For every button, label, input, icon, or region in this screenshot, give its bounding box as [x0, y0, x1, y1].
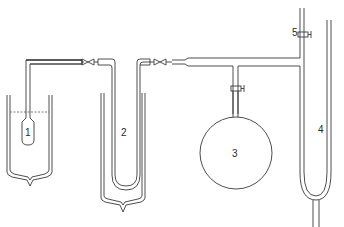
label-2: 2 [121, 127, 127, 138]
label-5: 5 [292, 27, 298, 38]
line-to-trap [26, 59, 137, 186]
apparatus-diagram: 1 2 [0, 0, 344, 227]
stopcock-5: 5 [292, 27, 311, 38]
dewar-2 [101, 93, 145, 212]
storage-bulb-3: 3 [200, 91, 272, 189]
valve-2 [154, 59, 166, 65]
manometer-4: 4 [318, 124, 324, 135]
label-4: 4 [318, 124, 324, 135]
label-1: 1 [25, 127, 31, 138]
dewar-1 [7, 95, 52, 186]
label-3: 3 [232, 148, 238, 159]
